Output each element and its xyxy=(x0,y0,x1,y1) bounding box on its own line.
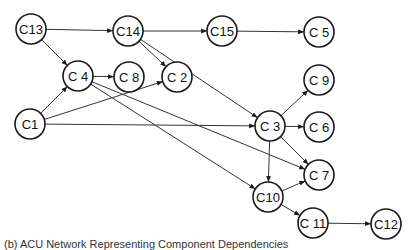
node-c1: C1 xyxy=(15,109,45,139)
node-label: C12 xyxy=(374,217,398,232)
node-c7: C 7 xyxy=(304,160,334,190)
node-label: C 2 xyxy=(167,70,187,85)
graph-nodes: C13C14C15C 5C 4C 8C 2C 9C1C 3C 6C 7C10C … xyxy=(15,14,401,239)
node-c14: C14 xyxy=(113,16,143,46)
node-label: C14 xyxy=(116,24,140,39)
node-label: C 3 xyxy=(260,119,280,134)
node-c2: C 2 xyxy=(162,62,192,92)
edge-c13-to-c14 xyxy=(46,29,113,30)
edge-c11-to-c12 xyxy=(328,223,371,224)
edge-c3-to-c7 xyxy=(281,137,308,164)
edge-c10-to-c7 xyxy=(282,181,305,191)
node-c5: C 5 xyxy=(304,17,334,47)
node-label: C15 xyxy=(210,24,234,39)
edge-c1-to-c3 xyxy=(45,124,255,126)
node-c4: C 4 xyxy=(63,61,93,91)
edge-c3-to-c9 xyxy=(281,91,308,116)
figure-caption: (b) ACU Network Representing Component D… xyxy=(4,238,288,250)
edge-c1-to-c2 xyxy=(44,82,162,120)
node-label: C 7 xyxy=(309,168,329,183)
node-c12: C12 xyxy=(371,209,401,239)
edge-c10-to-c11 xyxy=(281,205,300,216)
node-c9: C 9 xyxy=(304,65,334,95)
node-c6: C 6 xyxy=(304,112,334,142)
node-c8: C 8 xyxy=(114,62,144,92)
node-c13: C13 xyxy=(16,14,46,44)
node-label: C1 xyxy=(22,117,39,132)
node-label: C 9 xyxy=(309,73,329,88)
node-label: C 11 xyxy=(300,216,327,231)
node-label: C13 xyxy=(19,22,43,37)
node-c3: C 3 xyxy=(255,111,285,141)
edge-c3-to-c10 xyxy=(268,141,269,182)
edge-c14-to-c3 xyxy=(140,39,257,117)
edge-c15-to-c5 xyxy=(237,31,304,32)
node-c10: C10 xyxy=(253,182,283,212)
node-label: C 5 xyxy=(309,25,329,40)
node-c15: C15 xyxy=(207,16,237,46)
node-label: C 8 xyxy=(119,70,139,85)
node-label: C 4 xyxy=(68,69,88,84)
node-label: C10 xyxy=(256,190,280,205)
edge-c1-to-c4 xyxy=(41,87,67,113)
edge-c13-to-c4 xyxy=(42,40,67,65)
node-c11: C 11 xyxy=(298,208,328,238)
node-label: C 6 xyxy=(309,120,329,135)
